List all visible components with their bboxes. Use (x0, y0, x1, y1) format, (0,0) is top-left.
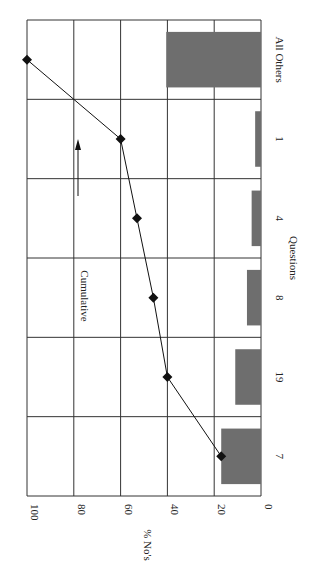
svg-text:20: 20 (216, 504, 228, 516)
svg-text:0: 0 (263, 504, 275, 510)
pareto-chart: 020406080100 719841All Others Cumulative… (0, 0, 312, 565)
bar-all-others (166, 32, 261, 88)
value-axis-ticks: 020406080100 (29, 504, 275, 521)
arrow-up-icon (75, 139, 81, 150)
svg-text:80: 80 (76, 504, 88, 516)
svg-text:7: 7 (274, 454, 286, 460)
y-axis-label: % No's (142, 529, 154, 561)
x-axis-label: Questions (288, 236, 300, 280)
svg-text:100: 100 (29, 504, 41, 521)
svg-text:8: 8 (274, 295, 286, 301)
bar-4 (252, 191, 261, 247)
cumulative-annotation: Cumulative (75, 139, 91, 322)
svg-text:40: 40 (169, 504, 181, 516)
svg-text:60: 60 (123, 504, 135, 516)
diamond-marker-icon (162, 372, 172, 382)
svg-text:1: 1 (274, 136, 286, 142)
bar-1 (255, 111, 261, 167)
diamond-marker-icon (132, 213, 142, 223)
svg-text:Cumulative: Cumulative (79, 270, 91, 321)
grid-lines (27, 20, 261, 496)
svg-text:4: 4 (274, 216, 286, 222)
svg-text:All Others: All Others (274, 37, 286, 83)
svg-text:19: 19 (274, 372, 286, 384)
bar-7 (221, 429, 261, 485)
diamond-marker-icon (148, 293, 158, 303)
category-labels: 719841All Others (274, 37, 286, 460)
bar-19 (235, 349, 261, 405)
bar-8 (247, 270, 261, 326)
